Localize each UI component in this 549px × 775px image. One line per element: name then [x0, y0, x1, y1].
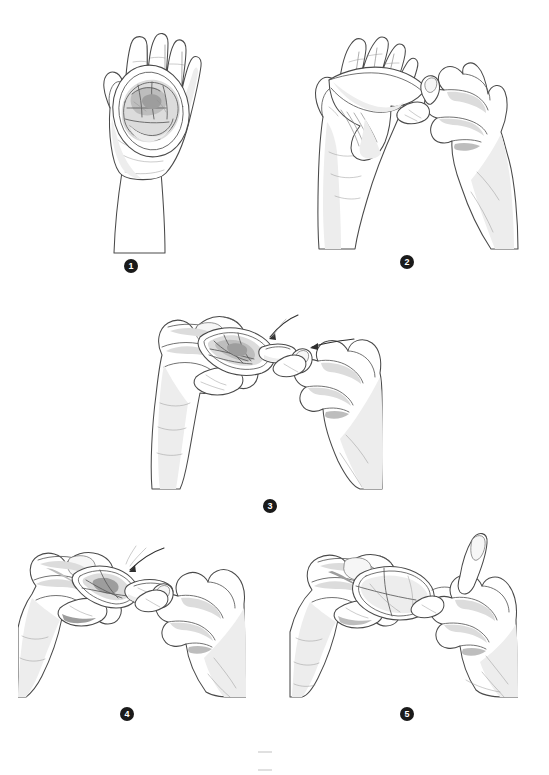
step-badge-2: 2	[400, 255, 414, 269]
step-4-illustration	[18, 528, 246, 698]
step-badge-1: 1	[124, 259, 138, 273]
step-badge-3: 3	[263, 499, 277, 513]
step-badge-5: 5	[400, 707, 414, 721]
footer-mark-dash-left	[258, 751, 272, 753]
footer-mark-dash-right	[258, 769, 272, 771]
step-1-illustration	[62, 22, 237, 254]
direction-arrow-1	[129, 548, 164, 572]
step-panel-3	[148, 285, 383, 490]
footer-mark	[258, 742, 292, 747]
step-panel-5	[288, 528, 518, 698]
step-2-illustration	[305, 22, 520, 250]
step-badge-4: 4	[120, 707, 134, 721]
step-panel-4	[18, 528, 246, 698]
step-panel-1	[62, 22, 237, 254]
step-panel-2	[305, 22, 520, 250]
step-3-illustration	[148, 285, 383, 490]
step-5-illustration	[288, 528, 518, 698]
